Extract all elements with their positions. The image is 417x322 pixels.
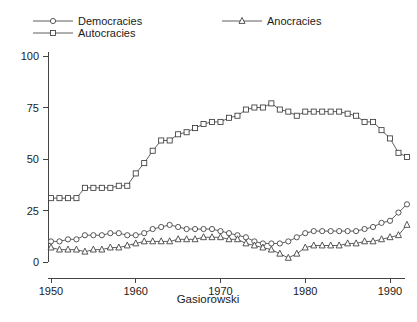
data-point-circle-marker (303, 231, 308, 236)
data-point-square-marker (65, 196, 70, 201)
data-point-square-marker (387, 136, 392, 141)
data-point-square-marker (337, 109, 342, 114)
data-point-triangle-marker (107, 244, 113, 250)
data-point-triangle-marker (345, 240, 351, 246)
data-point-triangle-marker (175, 236, 181, 242)
data-point-circle-marker (99, 233, 104, 238)
data-point-triangle-marker (218, 234, 224, 240)
y-axis-tick-label: 75 (27, 102, 39, 114)
data-point-triangle-marker (90, 246, 96, 252)
data-point-circle-marker (370, 224, 375, 229)
data-point-circle-marker (125, 233, 130, 238)
data-point-circle-marker (201, 226, 206, 231)
data-point-circle-marker (133, 233, 138, 238)
legend-item-autocracies[interactable]: Autocracies (33, 27, 136, 39)
data-point-square-marker (176, 132, 181, 137)
data-point-circle-marker (277, 241, 282, 246)
data-point-square-marker (362, 119, 367, 124)
data-point-square-marker (286, 109, 291, 114)
data-point-circle-marker (176, 224, 181, 229)
data-point-square-marker (142, 161, 147, 166)
data-point-circle-marker (150, 226, 155, 231)
data-point-circle-marker (74, 237, 79, 242)
data-point-square-marker (303, 109, 308, 114)
data-point-square-marker (379, 128, 384, 133)
data-point-square-marker (116, 183, 121, 188)
data-point-square-marker (125, 183, 130, 188)
data-point-square-marker (371, 119, 376, 124)
data-point-square-marker (260, 105, 265, 110)
data-point-square-marker (252, 105, 257, 110)
x-axis-tick-label: 1950 (39, 285, 63, 297)
legend-label: Autocracies (78, 27, 136, 39)
data-point-square-marker (74, 196, 79, 201)
data-point-square-marker (269, 101, 274, 106)
data-point-square-marker (159, 138, 164, 143)
chart-axes: 025507510019501960197019801990 (21, 50, 405, 297)
data-point-square-marker (226, 115, 231, 120)
data-point-square-marker (184, 130, 189, 135)
data-point-circle-marker (396, 210, 401, 215)
legend-label: Anocracies (267, 15, 322, 27)
y-axis-tick-label: 25 (27, 205, 39, 217)
data-point-square-marker (133, 171, 138, 176)
line-chart: DemocraciesAutocraciesAnocracies 0255075… (0, 0, 417, 322)
data-point-circle-marker (286, 239, 291, 244)
data-point-circle-marker (345, 229, 350, 234)
data-point-circle-marker (82, 233, 87, 238)
y-axis-tick-label: 0 (33, 256, 39, 268)
data-point-square-marker (345, 111, 350, 116)
data-point-square-marker (57, 196, 62, 201)
legend-item-anocracies[interactable]: Anocracies (222, 15, 322, 27)
data-point-square-marker (48, 196, 53, 201)
data-point-triangle-marker (239, 17, 245, 23)
data-point-triangle-marker (362, 238, 368, 244)
y-axis-tick-label: 50 (27, 153, 39, 165)
data-point-circle-marker (57, 239, 62, 244)
data-point-square-marker (209, 119, 214, 124)
data-point-circle-marker (116, 231, 121, 236)
data-point-triangle-marker (404, 221, 410, 227)
data-point-circle-marker (50, 18, 55, 23)
data-point-triangle-marker (141, 238, 147, 244)
data-point-triangle-marker (184, 236, 190, 242)
data-point-square-marker (404, 154, 409, 159)
data-point-circle-marker (91, 233, 96, 238)
x-axis-title: Gasiorowski (177, 293, 240, 305)
data-point-circle-marker (294, 235, 299, 240)
data-point-circle-marker (159, 224, 164, 229)
data-point-circle-marker (387, 218, 392, 223)
data-point-square-marker (354, 113, 359, 118)
data-point-triangle-marker (150, 238, 156, 244)
data-point-triangle-marker (65, 246, 71, 252)
data-point-circle-marker (311, 229, 316, 234)
data-point-triangle-marker (48, 244, 54, 250)
chart-legend: DemocraciesAutocraciesAnocracies (33, 15, 322, 39)
x-axis-tick-label: 1960 (124, 285, 148, 297)
data-point-circle-marker (65, 237, 70, 242)
data-point-square-marker (277, 107, 282, 112)
data-point-square-marker (91, 185, 96, 190)
data-point-circle-marker (167, 222, 172, 227)
data-point-square-marker (99, 185, 104, 190)
data-point-triangle-marker (311, 242, 317, 248)
data-point-circle-marker (142, 231, 147, 236)
data-point-circle-marker (354, 229, 359, 234)
data-point-square-marker (218, 119, 223, 124)
legend-item-democracies[interactable]: Democracies (33, 15, 143, 27)
data-point-triangle-marker (209, 234, 215, 240)
data-point-square-marker (193, 126, 198, 131)
y-axis-tick-label: 100 (21, 50, 39, 62)
data-point-triangle-marker (201, 234, 207, 240)
data-point-triangle-marker (158, 238, 164, 244)
data-point-square-marker (235, 113, 240, 118)
data-point-triangle-marker (319, 242, 325, 248)
data-point-square-marker (243, 107, 248, 112)
data-point-circle-marker (184, 226, 189, 231)
legend-label: Democracies (78, 15, 143, 27)
data-point-square-marker (82, 185, 87, 190)
data-point-circle-marker (379, 220, 384, 225)
data-point-square-marker (201, 121, 206, 126)
chart-series-group (48, 101, 410, 260)
data-point-circle-marker (362, 226, 367, 231)
